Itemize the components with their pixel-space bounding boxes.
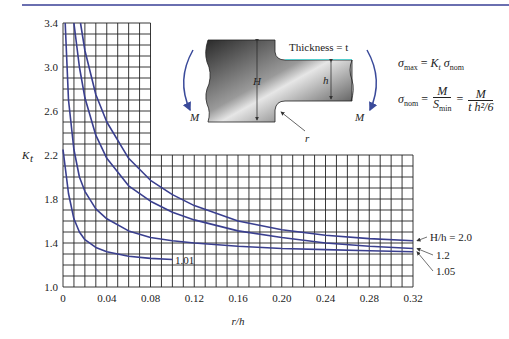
formula-sigma-nom: σnom = MSmin = Mt h²/6 <box>398 85 495 115</box>
x-tick-label: 0.32 <box>403 292 422 304</box>
moment-label-left: M <box>189 111 200 123</box>
formula-sigma-max: σmax = Kt σnom <box>398 56 464 72</box>
curve-annotation: 1.01 <box>175 254 194 266</box>
x-tick-label: 0.04 <box>97 292 117 304</box>
x-tick-label: 0 <box>60 292 66 304</box>
kt-symbol: K <box>430 56 438 70</box>
fraction-M-over-S: MSmin <box>433 85 451 115</box>
t-subscript: t <box>439 63 441 72</box>
H-label: H <box>252 75 262 87</box>
moment-arrow-right <box>367 50 376 110</box>
x-axis-label: r/h <box>232 315 245 327</box>
M-symbol: M <box>437 84 447 98</box>
y-tick-label: 3.4 <box>44 17 58 29</box>
radius-pointer <box>281 112 305 131</box>
equals-sign: = <box>421 56 428 70</box>
curve-annotation: H/h = 2.0 <box>430 231 472 243</box>
moment-label-right: M <box>354 111 365 123</box>
r-label: r <box>305 132 310 144</box>
x-tick-label: 0.12 <box>185 292 204 304</box>
x-tick-label: 0.08 <box>141 292 161 304</box>
equals-sign: = <box>456 92 463 106</box>
moment-arrow-left <box>184 50 193 110</box>
x-tick-label: 0.16 <box>228 292 248 304</box>
thickness-label: Thickness = t <box>289 41 348 53</box>
y-tick-label: 1.4 <box>44 237 58 249</box>
svg-text:t: t <box>30 152 34 164</box>
curve-annotation: 1.2 <box>436 249 450 261</box>
y-tick-label: 2.2 <box>44 149 58 161</box>
nom-subscript: nom <box>404 99 418 108</box>
y-axis-label: K <box>21 149 30 161</box>
y-tick-label: 3.0 <box>44 61 58 73</box>
M-symbol: M <box>476 87 486 101</box>
nom-subscript: nom <box>450 63 464 72</box>
y-tick-label: 2.6 <box>44 105 58 117</box>
h-label: h <box>323 74 329 86</box>
stepped-bar-diagram: H h r M M Thickness = t <box>184 40 377 144</box>
min-subscript: min <box>439 104 451 113</box>
x-tick-label: 0.24 <box>316 292 336 304</box>
x-tick-label: 0.28 <box>360 292 380 304</box>
stress-concentration-chart: 00.040.080.120.160.200.240.280.321.01.41… <box>0 0 509 339</box>
y-tick-label: 1.8 <box>44 193 58 205</box>
equals-sign: = <box>421 92 428 106</box>
section-denominator: t h²/6 <box>468 100 493 114</box>
x-tick-label: 0.20 <box>272 292 292 304</box>
y-tick-label: 1.0 <box>44 281 58 293</box>
fraction-M-over-section: Mt h²/6 <box>468 88 493 113</box>
curve-annotation: 1.05 <box>436 265 456 277</box>
max-subscript: max <box>404 63 418 72</box>
